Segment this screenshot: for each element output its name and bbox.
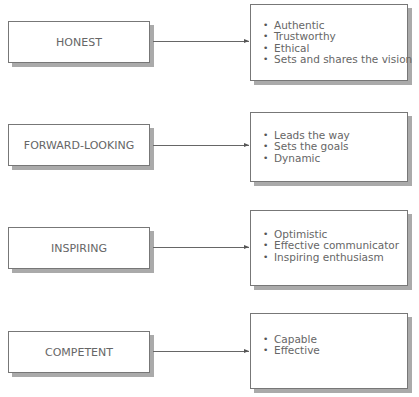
attribute-box-honest: Authentic Trustworthy Ethical Sets and s… bbox=[250, 4, 408, 81]
trait-label: COMPETENT bbox=[45, 346, 113, 359]
list-item: Dynamic bbox=[263, 153, 350, 165]
list-item: Effective bbox=[263, 345, 320, 357]
attribute-list: Authentic Trustworthy Ethical Sets and s… bbox=[251, 20, 412, 66]
list-item: Inspiring enthusiasm bbox=[263, 252, 399, 264]
arrow-connector bbox=[153, 145, 249, 146]
attribute-list: Optimistic Effective communicator Inspir… bbox=[251, 229, 399, 264]
attribute-list: Leads the way Sets the goals Dynamic bbox=[251, 130, 350, 165]
attribute-box-forward-looking: Leads the way Sets the goals Dynamic bbox=[250, 112, 408, 182]
attribute-box-competent: Capable Effective bbox=[250, 313, 408, 389]
trait-label: HONEST bbox=[56, 36, 102, 49]
list-item: Trustworthy bbox=[263, 31, 412, 43]
attribute-box-inspiring: Optimistic Effective communicator Inspir… bbox=[250, 210, 408, 286]
trait-box-honest: HONEST bbox=[8, 21, 150, 63]
arrow-connector bbox=[153, 41, 249, 42]
attribute-list: Capable Effective bbox=[251, 334, 320, 357]
list-item: Sets and shares the vision bbox=[263, 54, 412, 66]
trait-box-inspiring: INSPIRING bbox=[8, 227, 150, 269]
trait-label: INSPIRING bbox=[51, 242, 107, 255]
trait-box-forward-looking: FORWARD-LOOKING bbox=[8, 124, 150, 166]
trait-label: FORWARD-LOOKING bbox=[24, 139, 134, 152]
trait-box-competent: COMPETENT bbox=[8, 331, 150, 373]
arrow-connector bbox=[153, 247, 249, 248]
arrow-connector bbox=[153, 351, 249, 352]
